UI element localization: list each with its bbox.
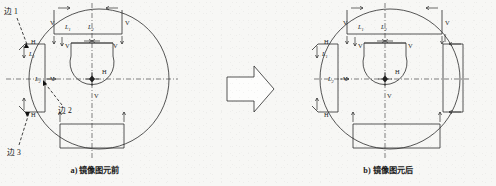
mark-V-before-2: V bbox=[125, 19, 130, 26]
mark-V-before-5: V bbox=[50, 75, 55, 82]
mark-V-after-3: V bbox=[358, 42, 363, 49]
caption-after: b) 镜像图元后 bbox=[363, 165, 412, 175]
mark-V-before-4: V bbox=[113, 42, 118, 49]
mark-H-before-1: H bbox=[31, 38, 36, 45]
mark-H-before-3: H bbox=[102, 68, 107, 75]
panel-after: L1 L2 L1 L2 V V V V V V H H H b) 镜像图元后 bbox=[312, 3, 470, 175]
label-L1-top-after: L1 bbox=[357, 23, 364, 32]
callout-edge-2-label: 边 2 bbox=[58, 106, 72, 115]
mark-H-after-3: H bbox=[395, 68, 400, 75]
caption-before: a) 镜像图元前 bbox=[71, 165, 120, 175]
dimension-arrows-before bbox=[22, 6, 125, 122]
label-L2-left-after: L2 bbox=[327, 75, 335, 84]
mark-V-after-6: V bbox=[387, 92, 392, 99]
mirror-primitive-figure: L1 L2 L1 L2 V V V V V V H H H 边 1 边 2 边 … bbox=[0, 0, 496, 186]
mark-V-before-1: V bbox=[50, 19, 55, 26]
label-L2-left-before: L2 bbox=[34, 75, 42, 84]
label-L1-left-before: L1 bbox=[28, 50, 35, 59]
dimension-arrows-after bbox=[315, 6, 461, 122]
mark-H-after-1: H bbox=[324, 38, 329, 45]
mark-V-after-2: V bbox=[445, 19, 450, 26]
mark-V-after-1: V bbox=[343, 19, 348, 26]
label-L2-top-before: L2 bbox=[87, 23, 95, 32]
label-L1-left-after: L1 bbox=[321, 50, 328, 59]
top-rectangle-before bbox=[54, 10, 122, 34]
callout-edge-3-label: 边 3 bbox=[7, 148, 21, 157]
panel-before: L1 L2 L1 L2 V V V V V V H H H 边 1 边 2 边 … bbox=[4, 3, 178, 175]
mark-V-before-6: V bbox=[94, 92, 99, 99]
label-L2-top-after: L2 bbox=[380, 23, 388, 32]
mark-H-after-2: H bbox=[324, 111, 329, 118]
mark-V-before-3: V bbox=[65, 42, 70, 49]
label-L1-top-before: L1 bbox=[64, 23, 71, 32]
callout-edge-1-label: 边 1 bbox=[4, 7, 18, 16]
mark-V-after-4: V bbox=[408, 42, 413, 49]
mark-H-before-2: H bbox=[31, 111, 36, 118]
right-arrow-icon bbox=[227, 66, 274, 112]
mark-V-after-5: V bbox=[343, 75, 348, 82]
